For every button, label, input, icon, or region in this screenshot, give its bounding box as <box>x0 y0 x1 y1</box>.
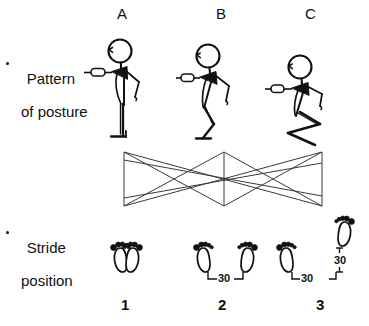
connection-network <box>124 152 322 206</box>
figure-panel: A B C Pattern of posture Stride position… <box>0 0 369 326</box>
stride-1-left-foot-icon <box>114 248 127 272</box>
posture-c-leader-line <box>265 85 292 93</box>
stride-3-back-foot-icon <box>280 248 293 272</box>
posture-c-neck <box>302 79 303 86</box>
posture-b-leader-line <box>176 74 200 82</box>
posture-a-shoulder-wedge-icon <box>112 67 128 80</box>
stride-2-left-foot-icon <box>197 248 210 272</box>
posture-figure-a <box>109 40 140 138</box>
posture-b-shoulder-wedge-icon <box>200 72 217 85</box>
posture-c-shank <box>288 124 320 133</box>
posture-b-forearm <box>226 86 229 101</box>
posture-b-head-icon <box>197 45 220 68</box>
posture-a-torso-front <box>116 73 121 104</box>
posture-c-upper-arm <box>308 87 323 95</box>
posture-c-thigh <box>300 112 320 124</box>
stride-3-horizontal-dimension-label: 30 <box>301 272 313 284</box>
posture-a-pointer-lozenge-icon <box>91 69 105 77</box>
posture-a-forearm <box>135 82 139 97</box>
stride-3-vertical-dimension-label: 30 <box>334 254 346 266</box>
posture-figure-c <box>288 56 322 146</box>
posture-c-thigh-far <box>298 113 316 124</box>
posture-b-pointer-lozenge-icon <box>181 74 194 82</box>
posture-c-shoulder-wedge-icon <box>292 83 309 96</box>
posture-c-head-icon <box>289 56 312 79</box>
posture-c-pointer-lozenge-icon <box>271 85 284 93</box>
edge-a-3-low <box>124 160 322 196</box>
posture-a-hand-icon <box>135 97 137 101</box>
posture-c-foot-segment <box>288 133 315 145</box>
stride-position-3 <box>277 216 355 279</box>
stride-2-right-foot-icon <box>241 248 254 272</box>
posture-c-forearm <box>320 94 322 106</box>
stride-3-horizontal-bracket <box>292 272 336 279</box>
posture-b-shank <box>203 124 214 138</box>
stride-position-1 <box>111 242 143 272</box>
posture-a-upper-arm <box>126 71 139 82</box>
stride-2-dimension-label: 30 <box>218 272 230 284</box>
posture-b-neck <box>210 68 211 75</box>
posture-a-leader-line <box>84 69 112 77</box>
stride-1-right-foot-icon <box>126 248 139 272</box>
figure-artwork <box>0 0 369 326</box>
posture-b-thigh-far <box>206 107 213 123</box>
posture-b-hand-icon <box>226 101 228 105</box>
posture-figure-b <box>196 45 229 139</box>
stride-3-front-foot-icon <box>338 222 351 246</box>
posture-c-hand-icon <box>320 106 322 110</box>
